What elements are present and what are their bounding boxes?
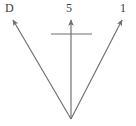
left-arrow <box>13 20 71 119</box>
middle-arrow-label: 5 <box>66 2 72 14</box>
diagram-canvas <box>0 0 136 126</box>
right-arrow <box>71 20 122 119</box>
right-arrow-label: 1 <box>120 2 126 14</box>
left-arrow-label: D <box>5 2 14 14</box>
vector-diagram: D 5 1 <box>0 0 136 126</box>
